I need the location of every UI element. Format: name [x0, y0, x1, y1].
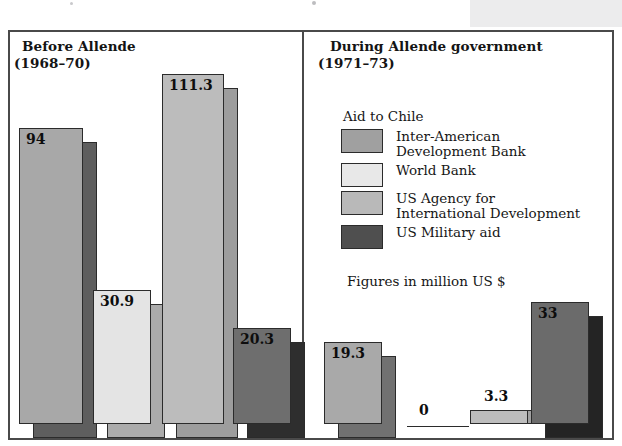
right-bar-usaid-value: 3.3 [484, 388, 508, 404]
scan-speck-icon [312, 1, 316, 5]
left-bar-world-bank: 30.9 [93, 290, 171, 438]
left-bar-world-bank-value: 30.9 [100, 293, 134, 309]
legend-swatch-usaid [341, 191, 383, 215]
right-panel-title: During Allende government [330, 38, 543, 55]
legend-label-military: US Military aid [396, 224, 501, 240]
left-bar-usaid-face [162, 74, 224, 424]
left-bar-military: 20.3 [233, 328, 309, 438]
right-bar-usaid-face [470, 410, 528, 424]
left-panel-years: (1968–70) [14, 55, 91, 72]
right-bar-iadb-value: 19.3 [331, 345, 365, 361]
legend-item-usaid: US Agency for International Development [341, 190, 611, 221]
figures-unit-note: Figures in million US $ [347, 273, 506, 289]
legend-heading: Aid to Chile [343, 108, 611, 124]
right-bar-iadb: 19.3 [324, 342, 400, 438]
right-panel-years: (1971–73) [318, 55, 395, 72]
left-bar-world-bank-face [93, 290, 151, 424]
scan-corner-artifact [470, 0, 622, 27]
legend-item-military: US Military aid [341, 224, 611, 249]
left-bar-usaid-value: 111.3 [169, 77, 213, 93]
chart-legend: Aid to Chile Inter-American Development … [341, 108, 611, 252]
right-bar-world-bank-zero-rule [407, 426, 469, 427]
right-bar-military-value: 33 [538, 305, 557, 321]
right-bar-world-bank-value: 0 [419, 402, 429, 418]
legend-swatch-world-bank [341, 163, 383, 187]
left-panel-title: Before Allende [22, 38, 136, 55]
left-bar-usaid: 111.3 [162, 74, 242, 438]
legend-label-usaid: US Agency for International Development [396, 190, 580, 221]
left-bar-iadb-value: 94 [26, 131, 45, 147]
legend-item-world-bank: World Bank [341, 162, 611, 187]
left-bar-iadb: 94 [19, 128, 97, 438]
legend-swatch-military [341, 225, 383, 249]
legend-swatch-iadb [341, 129, 383, 153]
legend-label-iadb: Inter-American Development Bank [396, 128, 526, 159]
legend-item-iadb: Inter-American Development Bank [341, 128, 611, 159]
scan-speck-icon [70, 2, 73, 5]
legend-label-world-bank: World Bank [396, 162, 476, 178]
left-bar-iadb-face [19, 128, 83, 424]
left-bar-military-value: 20.3 [240, 331, 274, 347]
right-bar-military: 33 [531, 302, 607, 438]
